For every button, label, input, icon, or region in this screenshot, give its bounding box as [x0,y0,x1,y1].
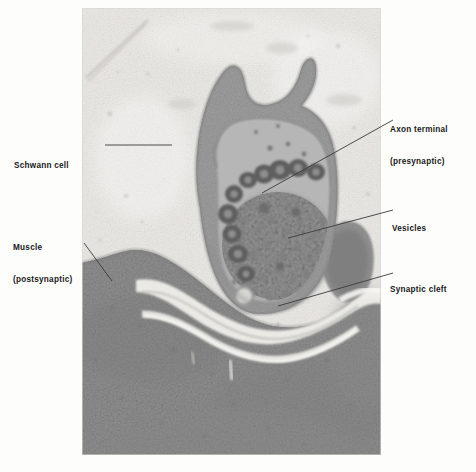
label-axon-line1: Axon terminal [390,125,448,136]
label-muscle-line2: (postsynaptic) [13,275,72,286]
label-synaptic-cleft: Synaptic cleft [390,264,447,317]
label-vesicles-line1: Vesicles [392,224,426,235]
label-schwann-cell: Schwann cell [14,140,69,193]
label-vesicles: Vesicles [392,203,426,256]
label-muscle-line1: Muscle [13,243,72,254]
label-axon-line2: (presynaptic) [390,157,448,168]
label-axon-terminal-presynaptic: Axon terminal (presynaptic) [390,104,448,188]
label-schwann-cell-line1: Schwann cell [14,161,69,172]
label-muscle-postsynaptic: Muscle (postsynaptic) [13,222,72,306]
figure-neuromuscular-junction: Schwann cell Muscle (postsynaptic) Axon … [0,0,476,472]
micrograph-image [82,8,381,455]
label-synaptic-cleft-line1: Synaptic cleft [390,285,447,296]
electron-micrograph-plate [82,8,381,455]
